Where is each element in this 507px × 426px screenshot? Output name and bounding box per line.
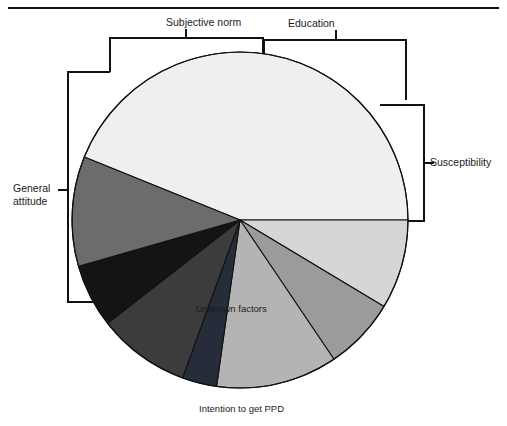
label-education: Education	[288, 17, 335, 30]
label-susceptibility: Susceptibility	[430, 156, 491, 169]
figure-root: Subjective norm Education Susceptibility…	[0, 0, 507, 426]
label-subjective-norm: Subjective norm	[166, 16, 241, 29]
label-general-attitude-line1: General	[13, 182, 50, 194]
label-intention-to-get-ppd: Intention to get PPD	[199, 403, 284, 414]
label-general-attitude: General attitude	[13, 182, 59, 207]
label-general-attitude-line2: attitude	[13, 195, 47, 207]
label-unknown-factors: Unknown factors	[196, 303, 267, 314]
pie-chart-figure	[0, 0, 507, 426]
pie-slices	[72, 52, 408, 388]
